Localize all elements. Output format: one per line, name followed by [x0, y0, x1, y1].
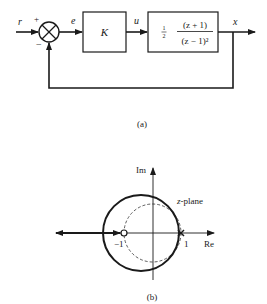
error-label: e — [71, 15, 76, 26]
block-diagram: r + − e K u 1 2 (z + 1) (z − 1)² x — [16, 12, 255, 129]
imag-axis-label: Im — [136, 165, 146, 175]
summing-junction — [39, 22, 59, 42]
plant-numerator: (z + 1) — [183, 20, 207, 30]
svg-text:1: 1 — [163, 25, 166, 31]
figure: r + − e K u 1 2 (z + 1) (z − 1)² x — [0, 0, 267, 304]
input-label: r — [18, 16, 22, 27]
svg-text:2: 2 — [163, 33, 166, 39]
minus-sign: − — [36, 39, 42, 50]
output-label: x — [232, 16, 238, 27]
control-label: u — [134, 15, 139, 26]
plane-label: z-plane — [176, 196, 203, 206]
real-axis-label: Re — [204, 239, 214, 249]
controller-gain: K — [100, 26, 109, 38]
plus-sign: + — [34, 14, 39, 24]
pole-label: 1 — [184, 239, 189, 249]
plant-block — [148, 12, 218, 52]
caption-a: (a) — [137, 119, 147, 129]
caption-b: (b) — [147, 292, 158, 302]
root-locus-plot: Im Re −1 1 z-plane (b) — [56, 165, 214, 302]
zero-marker — [121, 230, 127, 236]
zero-label: −1 — [114, 239, 124, 249]
plant-denominator: (z − 1)² — [182, 36, 209, 46]
